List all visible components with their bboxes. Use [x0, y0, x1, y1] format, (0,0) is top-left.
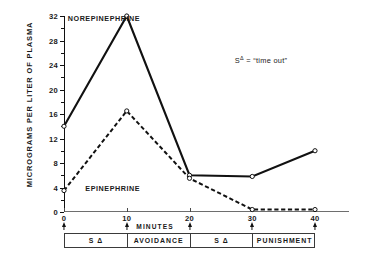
annotation-suffix: = “time out” — [244, 57, 288, 66]
y-tick-label-24: 24 — [49, 61, 58, 70]
data-point-epinephrine-10 — [125, 109, 129, 113]
arrow-stem-30 — [252, 226, 253, 230]
y-tick-label-4: 4 — [53, 183, 58, 192]
y-tick-label-20: 20 — [49, 85, 58, 94]
y-tick-label-16: 16 — [49, 110, 58, 119]
figure-root: MICROGRAMS PER LITER OF PLASMA 048121620… — [0, 0, 365, 266]
phase-arrow-30 — [250, 222, 254, 227]
data-point-epinephrine-20 — [187, 176, 191, 180]
series-path-epinephrine — [64, 111, 315, 210]
y-tick-label-12: 12 — [49, 134, 58, 143]
arrow-stem-10 — [126, 226, 127, 230]
phase-timeline-bar: S ΔAVOIDANCES ΔPUNISHMENT — [64, 233, 315, 248]
series-lines — [64, 16, 315, 212]
plot-area: 048121620242832 010203040 MINUTES NOREPI… — [64, 16, 315, 212]
phase-arrow-20 — [188, 222, 192, 227]
data-point-epinephrine-40 — [313, 207, 317, 211]
arrow-stem-40 — [314, 226, 315, 230]
phase-arrow-40 — [313, 222, 317, 227]
series-label-norepinephrine: NOREPINEPHRINE — [68, 14, 140, 23]
time-out-annotation: SΔ = “time out” — [235, 55, 288, 65]
data-point-norepinephrine-40 — [313, 149, 317, 153]
y-axis-title: MICROGRAMS PER LITER OF PLASMA — [25, 0, 34, 210]
data-point-norepinephrine-30 — [250, 174, 254, 178]
phase-arrow-10 — [125, 222, 129, 227]
y-tick-label-28: 28 — [49, 36, 58, 45]
phase-segment-4: PUNISHMENT — [253, 234, 316, 247]
arrow-stem-20 — [189, 226, 190, 230]
x-axis-title: MINUTES — [136, 223, 173, 230]
data-point-epinephrine-0 — [62, 188, 66, 192]
phase-segment-3: S Δ — [191, 234, 254, 247]
y-tick-label-0: 0 — [53, 208, 58, 217]
y-tick-0 — [60, 212, 65, 213]
series-path-norepinephrine — [64, 16, 315, 176]
y-tick-label-8: 8 — [53, 159, 58, 168]
phase-arrow-0 — [62, 222, 66, 227]
y-tick-label-32: 32 — [49, 12, 58, 21]
series-label-epinephrine: EPINEPHRINE — [85, 184, 140, 193]
data-point-epinephrine-30 — [250, 207, 254, 211]
data-point-norepinephrine-0 — [62, 124, 66, 128]
phase-segment-1: S Δ — [65, 234, 128, 247]
arrow-stem-0 — [63, 226, 64, 230]
phase-segment-2: AVOIDANCE — [128, 234, 191, 247]
